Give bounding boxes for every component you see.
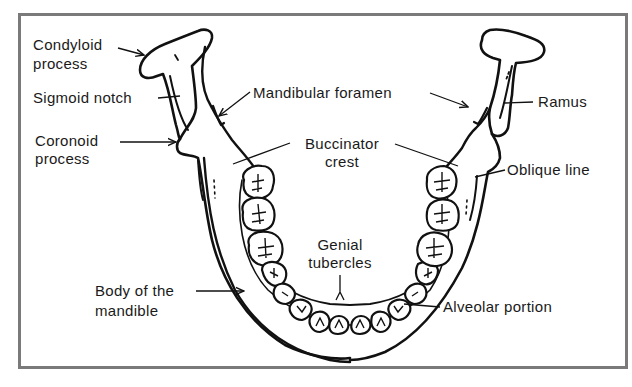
- left-sigmoid-inner: [170, 76, 188, 130]
- label-sigmoid-notch: Sigmoid notch: [33, 89, 132, 107]
- label-coronoid-process: Coronoid process: [35, 132, 98, 168]
- ramus-leader: [505, 102, 533, 103]
- mandibular-foramen-left-leader: [219, 92, 250, 116]
- label-oblique-line: Oblique line: [507, 161, 590, 179]
- mandibular-foramen-right-leader: [430, 93, 468, 107]
- label-body-of-mandible: Body of the mandible: [95, 282, 174, 320]
- genial-leader: [336, 275, 344, 300]
- left-condyle: [140, 30, 212, 139]
- label-buccinator-crest: Buccinator crest: [292, 135, 392, 171]
- label-alveolar-portion: Alveolar portion: [443, 298, 552, 316]
- right-condyle: [481, 29, 544, 136]
- label-ramus: Ramus: [538, 93, 587, 111]
- label-mandibular-foramen: Mandibular foramen: [253, 84, 392, 102]
- buccinator-left-leader: [233, 143, 290, 164]
- left-foramen-groove: [213, 106, 224, 125]
- label-genial-tubercles: Genial tubercles: [300, 236, 380, 272]
- condyloid-leader: [118, 48, 144, 55]
- label-condyloid-process: Condyloid process: [33, 36, 102, 73]
- buccinator-right-leader: [395, 144, 458, 166]
